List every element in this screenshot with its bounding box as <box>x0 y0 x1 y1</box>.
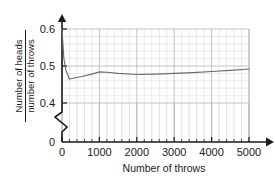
x-tick-label: 4000 <box>199 146 223 158</box>
x-tick-label: 0 <box>59 146 65 158</box>
y-axis-title-denominator: number of throws <box>25 39 36 113</box>
y-tick-label: 0.5 <box>40 60 55 72</box>
y-tick-label: 0.6 <box>40 23 55 35</box>
y-axis-title: Number of heads number of throws <box>13 30 36 122</box>
chart-figure: 010002000300040005000 0.40.50.6 0 Number… <box>0 0 275 180</box>
x-axis-title: Number of throws <box>123 162 206 174</box>
y-tick-label: 0.4 <box>40 97 55 109</box>
relative-frequency-line-chart: 010002000300040005000 0.40.50.6 0 Number… <box>0 0 275 180</box>
x-tick-label: 1000 <box>87 146 111 158</box>
x-tick-label: 2000 <box>125 146 149 158</box>
x-tick-label: 3000 <box>162 146 186 158</box>
x-tick-label: 5000 <box>237 146 261 158</box>
y-axis-title-numerator: Number of heads <box>13 39 24 112</box>
y-axis-zero-label: 0 <box>49 136 55 148</box>
